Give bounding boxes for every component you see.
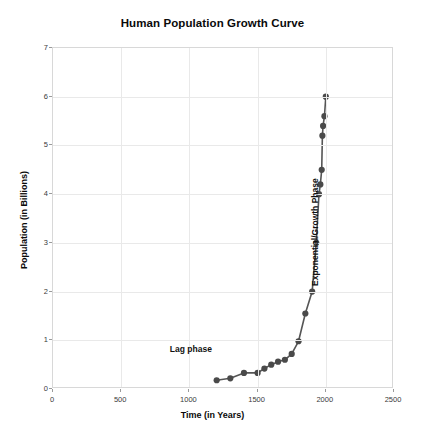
gridline-horizontal bbox=[53, 97, 392, 98]
data-point-marker bbox=[319, 167, 325, 173]
y-axis-ticks: 01234567 bbox=[10, 47, 48, 388]
data-point-marker bbox=[282, 357, 288, 363]
x-tick-mark bbox=[120, 389, 121, 392]
x-tick-mark bbox=[393, 389, 394, 392]
data-point-marker bbox=[319, 133, 325, 139]
annotation-lag-phase: Lag phase bbox=[170, 344, 212, 354]
data-point-marker bbox=[289, 351, 295, 357]
y-tick-label: 6 bbox=[18, 91, 48, 100]
x-axis-ticks: 05001000150020002500 bbox=[52, 389, 393, 411]
x-tick-label: 1000 bbox=[168, 395, 208, 404]
data-point-marker bbox=[241, 370, 247, 376]
y-tick-label: 3 bbox=[18, 237, 48, 246]
plot-area bbox=[52, 47, 393, 388]
x-tick-label: 0 bbox=[32, 395, 72, 404]
data-point-marker bbox=[227, 375, 233, 381]
y-tick-label: 5 bbox=[18, 140, 48, 149]
y-tick-label: 1 bbox=[18, 335, 48, 344]
gridline-horizontal bbox=[53, 145, 392, 146]
data-point-marker bbox=[275, 359, 281, 365]
gridline-horizontal bbox=[53, 194, 392, 195]
y-tick-label: 7 bbox=[18, 43, 48, 52]
chart-title: Human Population Growth Curve bbox=[0, 17, 425, 29]
y-tick-label: 2 bbox=[18, 286, 48, 295]
chart-figure: Human Population Growth Curve Population… bbox=[0, 0, 425, 444]
y-tick-label: 0 bbox=[18, 384, 48, 393]
gridline-vertical bbox=[258, 48, 259, 387]
data-point-marker bbox=[214, 377, 220, 383]
x-tick-mark bbox=[257, 389, 258, 392]
data-point-marker bbox=[261, 365, 267, 371]
x-tick-label: 2500 bbox=[373, 395, 413, 404]
x-tick-label: 1500 bbox=[237, 395, 277, 404]
y-tick-label: 4 bbox=[18, 189, 48, 198]
x-tick-label: 2000 bbox=[305, 395, 345, 404]
gridline-horizontal bbox=[53, 292, 392, 293]
gridline-vertical bbox=[326, 48, 327, 387]
data-point-marker bbox=[268, 362, 274, 368]
x-axis-label: Time (in Years) bbox=[0, 410, 425, 420]
data-series-svg bbox=[53, 48, 394, 389]
gridline-vertical bbox=[189, 48, 190, 387]
annotation-exponential-growth-phase: Exponential/Growth Phase bbox=[310, 178, 320, 286]
x-tick-mark bbox=[325, 389, 326, 392]
x-tick-mark bbox=[188, 389, 189, 392]
gridline-vertical bbox=[121, 48, 122, 387]
x-tick-label: 500 bbox=[100, 395, 140, 404]
gridline-horizontal bbox=[53, 340, 392, 341]
x-tick-mark bbox=[52, 389, 53, 392]
data-point-marker bbox=[302, 310, 308, 316]
gridline-horizontal bbox=[53, 243, 392, 244]
